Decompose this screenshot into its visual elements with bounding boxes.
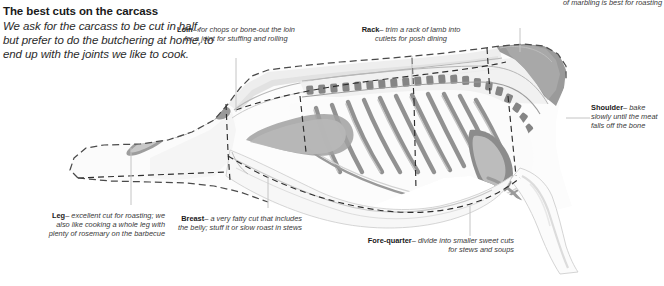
callout-leg-dash: – (65, 211, 69, 220)
fore-leg-shank (510, 168, 578, 274)
hind-leg-region (70, 103, 236, 183)
callout-shoulder-dash: – (623, 103, 627, 112)
callout-rack-text: trim a rack of lamb into cutlets for pos… (375, 25, 460, 43)
callout-breast-name: Breast (181, 214, 204, 223)
callout-loin: Loin– for chops or bone-out the loin for… (176, 26, 296, 44)
page-title: The best cuts on the carcass (3, 4, 215, 18)
callout-rack-dash: – (379, 25, 383, 34)
callout-loin-name: Loin (177, 25, 193, 34)
callout-fore-quarter-dash: – (412, 236, 416, 245)
callout-breast-dash: – (204, 214, 208, 223)
callout-fore-quarter-name: Fore-quarter (368, 236, 412, 245)
callout-fore-quarter: Fore-quarter– divide into smaller sweet … (366, 237, 514, 255)
callout-loin-text: for chops or bone-out the loin for a joi… (184, 25, 295, 43)
callout-leg-name: Leg (52, 211, 65, 220)
butchery-infographic: The best cuts on the carcass We ask for … (0, 0, 664, 286)
callout-rack: Rack– trim a rack of lamb into cutlets f… (355, 26, 467, 44)
callout-loin-dash: – (193, 25, 197, 34)
callout-breast: Breast– a very fatty cut that includes t… (176, 215, 302, 233)
callout-shoulder-name: Shoulder (591, 103, 623, 112)
callout-leg: Leg– excellent cut for roasting; we also… (37, 212, 165, 239)
callout-fore-quarter-text: divide into smaller sweet cuts for stews… (418, 236, 514, 254)
callout-shoulder: Shoulder– bake slowly until the meat fal… (591, 104, 663, 131)
callout-neck-marbling: of marbling is best for roasting (420, 0, 662, 8)
callout-rack-name: Rack (362, 25, 380, 34)
callout-neck-text: of marbling is best for roasting (563, 0, 662, 7)
